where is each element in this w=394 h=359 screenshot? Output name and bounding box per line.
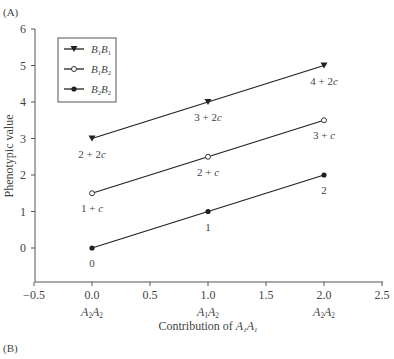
svg-text:0.0: 0.0 <box>85 288 100 302</box>
x-sublabel: A2​A2​ <box>80 305 103 320</box>
point-label: 3 + c <box>313 129 335 141</box>
svg-text:2.5: 2.5 <box>375 288 390 302</box>
svg-text:−0.5: −0.5 <box>23 288 45 302</box>
x-ticks: −0.50.00.51.01.52.02.5A2​A2​A1​A2​A2​A2​ <box>23 282 389 320</box>
svg-text:3: 3 <box>20 132 26 146</box>
svg-text:2: 2 <box>20 168 26 182</box>
x-sublabel: A2​A2​ <box>312 305 335 320</box>
legend: B1​B1​B1​B2​B2​B2​ <box>58 38 116 102</box>
point-label: 3 + 2c <box>194 111 222 123</box>
svg-text:4: 4 <box>20 95 26 109</box>
x-sublabel: A1​A2​ <box>196 305 219 320</box>
svg-text:6: 6 <box>20 22 26 36</box>
svg-text:0.5: 0.5 <box>143 288 158 302</box>
svg-text:5: 5 <box>20 59 26 73</box>
svg-text:1.0: 1.0 <box>201 288 216 302</box>
panel-label-b: (B) <box>3 342 18 355</box>
point-label: 0 <box>89 257 95 269</box>
svg-text:1.5: 1.5 <box>259 288 274 302</box>
x-axis-label: Contribution of A1A1 <box>158 319 257 334</box>
svg-text:0: 0 <box>20 241 26 255</box>
chart: (A) 0123456 −0.50.00.51.01.52.02.5A2​A2​… <box>0 0 394 359</box>
svg-text:1: 1 <box>20 205 26 219</box>
point-label: 2 + 2c <box>78 148 106 160</box>
point-label: 2 <box>321 184 327 196</box>
point-label: 1 + c <box>81 202 103 214</box>
point-label: 1 <box>205 221 211 233</box>
series-B1B1: 2 + 2c3 + 2c4 + 2c <box>78 63 338 160</box>
point-label: 4 + 2c <box>310 75 338 87</box>
y-ticks: 0123456 <box>20 22 35 255</box>
y-axis-label: Phenotypic value <box>2 115 16 198</box>
svg-text:2.0: 2.0 <box>317 288 332 302</box>
series-B2B2: 012 <box>89 172 327 269</box>
point-label: 2 + c <box>197 166 219 178</box>
panel-label-a: (A) <box>3 6 19 19</box>
series-B1B2: 1 + c2 + c3 + c <box>81 118 335 215</box>
series-group: 2 + 2c3 + 2c4 + 2c1 + c2 + c3 + c012 <box>78 63 338 270</box>
